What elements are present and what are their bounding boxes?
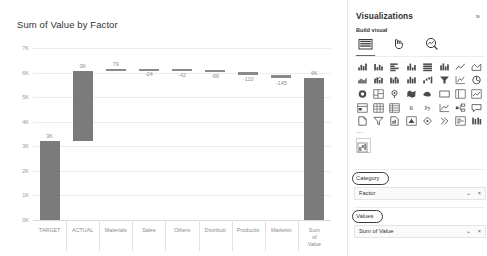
x-axis-tick — [298, 220, 299, 251]
powerapps-icon[interactable] — [403, 114, 419, 128]
x-axis-category-label: ACTUAL — [72, 227, 93, 234]
x-axis-category-label: Marketin — [271, 227, 292, 234]
kpi-icon[interactable] — [469, 87, 485, 101]
visual-type-gallery[interactable]: RPy — [354, 60, 485, 128]
selected-visual-thumbnail[interactable] — [356, 138, 371, 153]
azure-map-icon[interactable] — [420, 114, 436, 128]
fields-tab[interactable] — [356, 35, 376, 53]
x-axis-category-label: TARGET — [39, 227, 60, 234]
x-axis-line — [33, 220, 331, 221]
clustered-column-chart-icon[interactable] — [370, 60, 386, 74]
well-header-values[interactable]: Values — [354, 212, 373, 220]
bar[interactable] — [304, 78, 324, 220]
line-chart-icon[interactable] — [452, 60, 468, 74]
field-chip[interactable]: Factor⌄× — [354, 187, 486, 200]
data-label: -42 — [178, 72, 186, 78]
slicer-icon[interactable] — [354, 101, 370, 115]
format-tab[interactable] — [389, 35, 409, 53]
visual-pane-tabs[interactable] — [356, 35, 482, 55]
field-chip[interactable]: Sum of Value⌄× — [354, 225, 486, 238]
shape-map-icon[interactable] — [420, 87, 436, 101]
bar[interactable] — [40, 141, 60, 220]
x-axis-tick — [165, 220, 166, 251]
line-and-column-icon[interactable] — [370, 74, 386, 88]
gridline — [33, 48, 331, 49]
y-axis-tick-label: 2K — [5, 168, 29, 174]
gridline — [33, 195, 331, 196]
well-header-category[interactable]: Category — [354, 174, 380, 182]
expand-pane-icon[interactable]: » — [476, 12, 480, 21]
treemap-icon[interactable] — [370, 87, 386, 101]
bar[interactable] — [238, 72, 258, 75]
waterfall-chart-icon[interactable] — [420, 74, 436, 88]
power-bi-report-view: Sum of Value by Factor 0K1K2K3K4K5K6K7K … — [0, 0, 487, 256]
scatter-chart-icon[interactable] — [452, 74, 468, 88]
map-icon[interactable] — [387, 87, 403, 101]
paginated-report-icon[interactable] — [354, 114, 370, 128]
stacked-bar-horizontal-icon[interactable] — [387, 60, 403, 74]
stacked-area-chart-icon[interactable] — [354, 74, 370, 88]
metrics-icon[interactable] — [387, 114, 403, 128]
donut-chart-icon[interactable] — [354, 87, 370, 101]
x-axis-tick — [232, 220, 233, 251]
visualizations-title: Visualizations — [356, 11, 482, 21]
card-icon[interactable] — [436, 87, 452, 101]
ribbon-chart-icon[interactable] — [403, 74, 419, 88]
data-label: -145 — [276, 80, 287, 86]
data-label: -24 — [145, 71, 153, 77]
x-axis-category-label: Sales — [142, 227, 156, 234]
y-axis-tick-label: 7K — [5, 45, 29, 51]
bar[interactable] — [106, 69, 126, 71]
column-chart-icon[interactable] — [436, 60, 452, 74]
more-visuals-icon[interactable]: … — [356, 128, 364, 134]
gridline — [33, 171, 331, 172]
chevron-down-icon[interactable]: ⌄ — [466, 190, 471, 196]
smart-narrative-icon[interactable] — [370, 114, 386, 128]
funnel-chart-icon[interactable] — [436, 74, 452, 88]
power-automate-icon[interactable] — [452, 114, 468, 128]
chart-canvas[interactable]: Sum of Value by Factor 0K1K2K3K4K5K6K7K … — [0, 0, 347, 256]
chevron-visual-icon[interactable] — [436, 114, 452, 128]
get-more-visuals-icon[interactable] — [469, 114, 485, 128]
y-axis-tick-label: 5K — [5, 94, 29, 100]
area-chart-icon[interactable] — [469, 60, 485, 74]
visualizations-pane: Visualizations » Build visual — [347, 0, 487, 256]
bar[interactable] — [271, 75, 291, 79]
python-visual-icon[interactable]: Py — [420, 101, 436, 115]
data-label: -66 — [211, 73, 219, 79]
well-label-values: Values — [354, 212, 373, 220]
clustered-column-2-icon[interactable] — [403, 60, 419, 74]
matrix-icon[interactable] — [387, 101, 403, 115]
bar[interactable] — [73, 71, 93, 141]
x-axis-category-label: Productio — [237, 227, 260, 234]
qna-icon[interactable] — [469, 101, 485, 115]
decomposition-tree-icon[interactable] — [452, 101, 468, 115]
y-axis-tick-label: 1K — [5, 192, 29, 198]
table-icon[interactable] — [370, 101, 386, 115]
data-label: -110 — [243, 76, 253, 82]
data-label: 3K — [79, 63, 86, 69]
plot-area[interactable]: 0K1K2K3K4K5K6K7K 3K3K79-24-42-66-110-145… — [33, 48, 331, 220]
stacked-bar-chart-icon[interactable] — [354, 60, 370, 74]
x-axis-tick — [265, 220, 266, 251]
pie-chart-icon[interactable] — [469, 74, 485, 88]
analytics-tab[interactable] — [422, 35, 442, 53]
bar[interactable] — [205, 70, 225, 72]
y-axis-tick-label: 6K — [5, 70, 29, 76]
key-influencers-icon[interactable] — [436, 101, 452, 115]
well-divider — [354, 207, 484, 208]
remove-field-icon[interactable]: × — [478, 190, 481, 196]
data-label: 79 — [113, 61, 119, 67]
y-axis-tick-label: 3K — [5, 143, 29, 149]
line-stacked-column-icon[interactable] — [387, 74, 403, 88]
remove-field-icon[interactable]: × — [478, 228, 481, 234]
y-axis-tick-label: 0K — [5, 217, 29, 223]
well-divider — [354, 169, 484, 170]
hundred-stacked-bar-icon[interactable] — [420, 60, 436, 74]
r-script-visual-icon[interactable]: R — [403, 101, 419, 115]
chevron-down-icon[interactable]: ⌄ — [466, 228, 471, 234]
filled-map-icon[interactable] — [403, 87, 419, 101]
multi-row-card-icon[interactable] — [452, 87, 468, 101]
x-axis-category-label: Materials — [105, 227, 127, 234]
field-name: Factor — [359, 190, 375, 196]
